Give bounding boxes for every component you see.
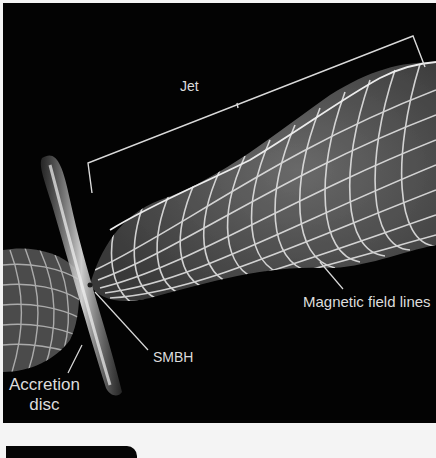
jet-wireframe: [90, 62, 436, 305]
accretion-disc-label-line2: disc: [9, 395, 80, 415]
diagram-panel: Jet Magnetic field lines SMBH Accretion …: [3, 3, 436, 423]
smbh-label: SMBH: [153, 350, 193, 364]
jet-illustration: [3, 3, 436, 423]
accretion-disc-leader-line: [68, 345, 82, 373]
magnetic-field-lines-label: Magnetic field lines: [303, 294, 431, 309]
accretion-disc-label-line1: Accretion: [9, 375, 80, 395]
accretion-disc-label: Accretion disc: [9, 375, 80, 414]
jet-label: Jet: [180, 79, 199, 93]
smbh-marker: [88, 283, 93, 288]
section-tab: [6, 446, 137, 458]
counter-jet-lobe: [3, 248, 80, 372]
